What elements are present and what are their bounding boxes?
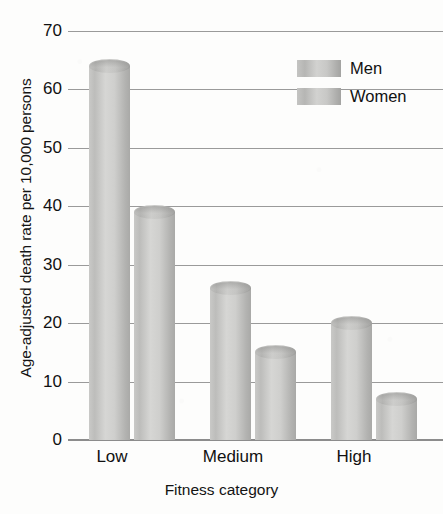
x-tick-label-low: Low: [52, 447, 172, 467]
bar-cap: [89, 59, 130, 73]
bar-medium-women: [255, 352, 296, 440]
bar-medium-men: [210, 288, 251, 440]
bar-high-men: [331, 323, 372, 440]
bar-low-men: [89, 66, 130, 440]
x-axis-title: Fitness category: [0, 481, 443, 499]
y-tick-label-70: 70: [0, 21, 62, 41]
legend-swatch-men: [297, 60, 341, 77]
y-tick-label-30: 30: [0, 255, 62, 275]
y-tick-label-40: 40: [0, 196, 62, 216]
y-tick-label-60: 60: [0, 79, 62, 99]
y-tick-label-50: 50: [0, 138, 62, 158]
legend-item-women: Women: [297, 85, 407, 107]
bar-cap: [255, 345, 296, 359]
bar-high-women: [376, 399, 417, 440]
x-tick-label-medium: Medium: [173, 447, 293, 467]
bar-cap: [210, 281, 251, 295]
legend-swatch-women: [297, 88, 341, 105]
bar-cap: [376, 392, 417, 406]
legend-item-men: Men: [297, 57, 407, 79]
x-tick-label-high: High: [294, 447, 414, 467]
bar-cap: [134, 205, 175, 219]
bar-low-women: [134, 212, 175, 440]
y-tick-label-20: 20: [0, 313, 62, 333]
legend-label-women: Women: [350, 88, 407, 105]
gridline-70: [68, 31, 443, 32]
bar-cap: [331, 316, 372, 330]
bar-chart: Age-adjusted death rate per 10,000 perso…: [0, 0, 443, 514]
legend-label-men: Men: [350, 60, 382, 77]
y-tick-label-10: 10: [0, 372, 62, 392]
chart-legend: Men Women: [297, 57, 407, 113]
